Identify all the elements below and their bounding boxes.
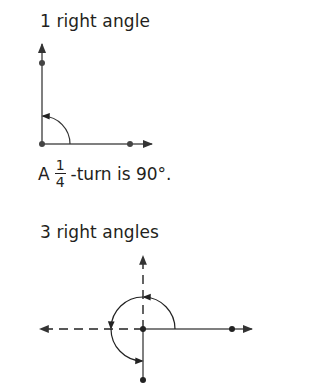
- diagram-canvas: [0, 0, 311, 383]
- one-right-angle-diagram: [39, 44, 152, 147]
- horizontal-point: [127, 141, 133, 147]
- fraction-denominator: 4: [56, 174, 65, 189]
- arc-quarter-1: [144, 297, 175, 329]
- vertex-point: [39, 141, 45, 147]
- three-right-angles-diagram: [40, 256, 252, 383]
- caption-prefix: A: [38, 164, 50, 184]
- arc-quarter-2: [111, 297, 143, 328]
- center-point: [140, 326, 146, 332]
- section-title-3-right-angles: 3 right angles: [40, 222, 159, 242]
- right-point: [229, 326, 235, 332]
- fraction-one-quarter: 1 4: [55, 158, 66, 189]
- caption-suffix: -turn is 90°.: [71, 164, 172, 184]
- vertical-point: [39, 60, 45, 66]
- fraction-numerator: 1: [55, 158, 66, 174]
- bottom-point: [140, 377, 146, 383]
- turn-arc-arrow: [43, 116, 70, 144]
- quarter-turn-caption: A 1 4 -turn is 90°.: [38, 158, 172, 189]
- arc-quarter-3: [111, 329, 142, 361]
